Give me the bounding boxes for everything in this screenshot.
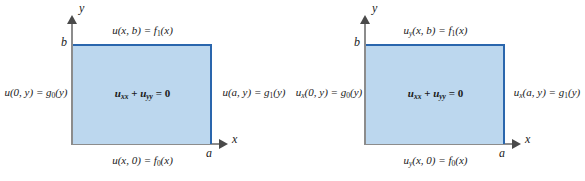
boundary-condition-left: ux(0, y) = g0(y): [295, 87, 363, 98]
boundary-condition-bottom: uy(x, 0) = f0(x): [353, 155, 518, 166]
boundary-condition-top: u(x, b) = f1(x): [73, 25, 212, 36]
interior-equation: uxx + uyy = 0: [366, 88, 505, 99]
x-axis-arrowhead-icon: [512, 139, 521, 149]
boundary-condition-right: ux(a, y) = g1(y): [509, 87, 585, 98]
y-axis-tick-label-b: b: [61, 36, 67, 48]
y-axis-arrowhead-icon: [360, 15, 370, 24]
boundary-condition-left: u(0, y) = g0(y): [2, 87, 70, 98]
x-axis-label: x: [525, 133, 530, 145]
figure-two-boundary-value-problems: y x b a u(x, b) = f1(x) u(x, 0) = f0(x) …: [0, 0, 585, 181]
y-axis-label: y: [372, 2, 377, 14]
boundary-condition-top: uy(x, b) = f1(x): [366, 25, 505, 36]
interior-equation: uxx + uyy = 0: [73, 88, 212, 99]
y-axis-arrowhead-icon: [67, 15, 77, 24]
boundary-condition-right: u(a, y) = g1(y): [216, 87, 292, 98]
x-axis-label: x: [232, 133, 237, 145]
y-axis-label: y: [79, 2, 84, 14]
y-axis-tick-label-b: b: [354, 36, 360, 48]
panel-neumann-problem: y x b a uy(x, b) = f1(x) uy(x, 0) = f0(x…: [293, 0, 585, 181]
panel-dirichlet-problem: y x b a u(x, b) = f1(x) u(x, 0) = f0(x) …: [0, 0, 292, 181]
x-axis-arrowhead-icon: [219, 139, 228, 149]
boundary-condition-bottom: u(x, 0) = f0(x): [60, 155, 225, 166]
